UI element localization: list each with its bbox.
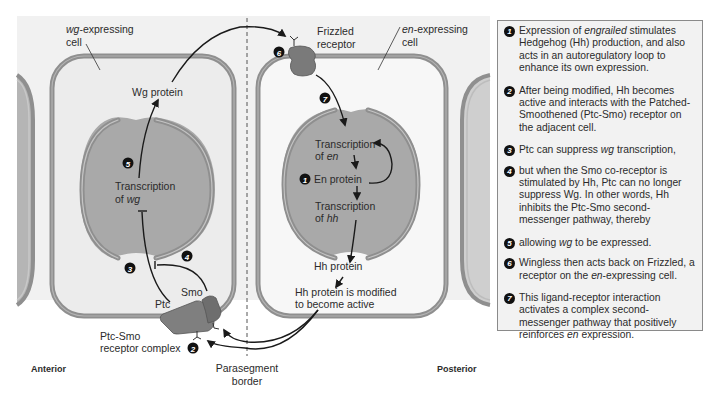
- step-number-badge: 4: [504, 166, 515, 177]
- step-text: Wingless then acts back on Frizzled, a r…: [519, 257, 696, 282]
- step-text: but when the Smo co-receptor is stimulat…: [519, 165, 696, 227]
- svg-text:to become active: to become active: [295, 298, 375, 310]
- svg-text:Ptc-Smo: Ptc-Smo: [100, 330, 140, 342]
- right-neighbor-cell: [462, 75, 490, 305]
- step-number-badge: 7: [504, 293, 515, 304]
- step-3: 3Ptc can suppress wg transcription,: [504, 144, 696, 156]
- step-number-badge: 5: [504, 238, 515, 249]
- svg-text:Ptc: Ptc: [155, 298, 170, 310]
- svg-text:Transcription: Transcription: [315, 200, 375, 212]
- svg-text:Anterior: Anterior: [31, 364, 67, 374]
- badge-5: 5: [123, 158, 134, 169]
- step-number-badge: 1: [504, 26, 515, 37]
- svg-text:2: 2: [190, 345, 196, 354]
- svg-text:border: border: [232, 375, 263, 387]
- svg-text:cell: cell: [402, 36, 418, 48]
- svg-text:Transcription: Transcription: [315, 138, 375, 150]
- step-2: 2After being modified, Hh becomes active…: [504, 85, 696, 135]
- step-number-badge: 6: [504, 258, 515, 269]
- step-number-badge: 3: [504, 145, 515, 156]
- step-text: After being modified, Hh becomes active …: [519, 85, 696, 135]
- badge-7: 7: [320, 93, 331, 104]
- svg-text:6: 6: [277, 49, 282, 58]
- svg-text:receptor complex: receptor complex: [100, 342, 181, 354]
- svg-text:of hh: of hh: [315, 212, 339, 224]
- step-text: Ptc can suppress wg transcription,: [519, 144, 676, 156]
- svg-text:Frizzled: Frizzled: [317, 25, 354, 37]
- svg-text:7: 7: [323, 95, 328, 104]
- svg-text:of wg: of wg: [115, 193, 140, 205]
- step-1: 1Expression of engrailed stimulates Hedg…: [504, 25, 696, 75]
- svg-text:Posterior: Posterior: [437, 364, 477, 374]
- svg-text:Transcription: Transcription: [115, 180, 175, 192]
- svg-text:3: 3: [128, 265, 133, 274]
- svg-text:Hh protein: Hh protein: [314, 260, 363, 272]
- step-7: 7This ligand-receptor interaction activa…: [504, 292, 696, 342]
- left-neighbor-cell: [17, 75, 33, 305]
- step-text: Expression of engrailed stimulates Hedge…: [519, 25, 696, 75]
- step-4: 4but when the Smo co-receptor is stimula…: [504, 165, 696, 227]
- svg-text:1: 1: [303, 176, 308, 185]
- svg-text:en-expressing: en-expressing: [402, 23, 468, 35]
- svg-text:4: 4: [184, 253, 190, 262]
- step-text: This ligand-receptor interaction activat…: [519, 292, 696, 342]
- svg-text:of en: of en: [315, 150, 339, 162]
- svg-text:cell: cell: [66, 36, 82, 48]
- svg-text:Parasegment: Parasegment: [216, 362, 279, 374]
- svg-text:En protein: En protein: [314, 173, 362, 185]
- svg-text:receptor: receptor: [317, 38, 356, 50]
- badge-6: 6: [274, 47, 285, 58]
- svg-text:Smo: Smo: [181, 286, 203, 298]
- badge-4: 4: [182, 251, 193, 262]
- axis-labels: Anterior Posterior Parasegment border: [31, 362, 477, 387]
- wg-protein-label: Wg protein: [132, 86, 183, 98]
- badge-1: 1: [300, 174, 311, 185]
- step-number-badge: 2: [504, 86, 515, 97]
- svg-text:5: 5: [126, 160, 131, 169]
- badge-3: 3: [125, 263, 136, 274]
- steps-panel: 1Expression of engrailed stimulates Hedg…: [497, 20, 703, 331]
- step-5: 5allowing wg to be expressed.: [504, 237, 696, 249]
- wg-cell-label: wg-expressing: [66, 23, 134, 35]
- badge-2: 2: [188, 343, 199, 354]
- svg-text:Hh protein is modified: Hh protein is modified: [295, 286, 397, 298]
- step-text: allowing wg to be expressed.: [519, 237, 651, 249]
- step-6: 6Wingless then acts back on Frizzled, a …: [504, 257, 696, 282]
